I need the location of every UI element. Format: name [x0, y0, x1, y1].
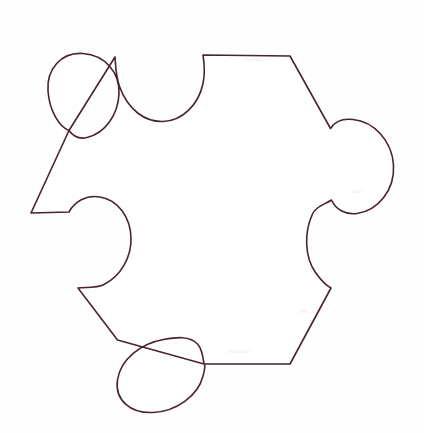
puzzle-piece-drawing	[0, 0, 424, 433]
drawing-canvas	[0, 0, 424, 433]
